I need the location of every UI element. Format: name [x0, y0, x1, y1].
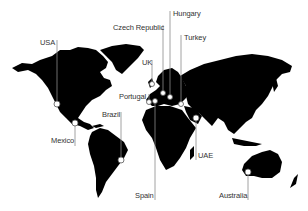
marker-uae[interactable] [193, 115, 199, 121]
label-czech-republic: Czech Republic [113, 23, 164, 32]
label-spain: Spain [135, 191, 154, 200]
label-portugal: Portugal [119, 92, 146, 101]
marker-czech-republic[interactable] [161, 91, 166, 96]
caribbean [92, 124, 104, 128]
new-zealand [290, 174, 298, 188]
label-turkey: Turkey [184, 33, 206, 42]
marker-mexico[interactable] [72, 120, 78, 126]
label-brazil: Brazil [102, 110, 120, 119]
marker-usa[interactable] [54, 101, 60, 107]
madagascar [190, 146, 194, 160]
north-america [12, 47, 112, 130]
marker-turkey[interactable] [179, 102, 184, 107]
greenland [100, 44, 144, 74]
label-usa: USA [40, 38, 55, 47]
label-uk: UK [142, 58, 152, 67]
label-hungary: Hungary [173, 9, 201, 18]
marker-portugal[interactable] [147, 100, 152, 105]
marker-uk[interactable] [150, 82, 155, 87]
marker-hungary[interactable] [168, 95, 173, 100]
label-mexico: Mexico [51, 136, 74, 145]
indonesia [232, 138, 262, 146]
label-australia: Australia [219, 191, 247, 200]
marker-brazil[interactable] [118, 157, 124, 163]
label-uae: UAE [198, 151, 213, 160]
marker-australia[interactable] [245, 169, 251, 175]
marker-spain[interactable] [153, 99, 158, 104]
